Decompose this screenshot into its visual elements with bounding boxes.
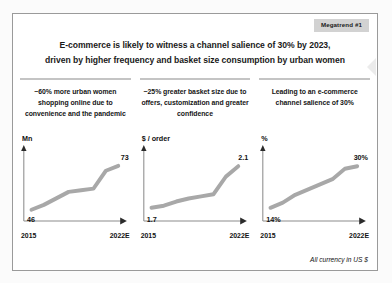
chart-start-value: 46 xyxy=(27,216,35,223)
chart-series-line xyxy=(271,166,358,208)
chart-series-line xyxy=(151,166,238,208)
chart-svg xyxy=(20,145,131,231)
chart-x-tick-end: 2022E xyxy=(110,232,130,239)
chart-urban-women-shoppers: Mn 46 73 2015 2022E xyxy=(20,134,131,239)
insight-text: ~25% greater basket size due to offers, … xyxy=(140,86,251,120)
chart-y-unit-label: % xyxy=(261,134,370,144)
chart-x-axis: 2015 2022E xyxy=(20,232,131,239)
insight-column-1: ~60% more urban women shopping online du… xyxy=(20,78,131,119)
chart-end-value: 2.1 xyxy=(238,154,248,161)
chart-x-tick-end: 2022E xyxy=(229,232,249,239)
chart-end-value: 30% xyxy=(354,154,368,161)
page-title: E-commerce is likely to witness a channe… xyxy=(13,38,377,68)
chart-x-tick-end: 2022E xyxy=(349,232,369,239)
chart-plot-area: 1.7 2.1 xyxy=(140,145,251,231)
insight-column-2: ~25% greater basket size due to offers, … xyxy=(140,78,251,119)
chart-x-tick-start: 2015 xyxy=(260,232,275,239)
insight-column-3: Leading to an e-commerce channel salienc… xyxy=(259,78,370,119)
chart-plot-area: 46 73 xyxy=(20,145,131,231)
chart-basket-size: $ / order 1.7 2.1 2015 2022E xyxy=(140,134,251,239)
chart-x-tick-start: 2015 xyxy=(141,232,156,239)
charts-row: Mn 46 73 2015 2022E $ / order xyxy=(20,134,370,239)
insight-text: ~60% more urban women shopping online du… xyxy=(20,86,131,120)
column-divider xyxy=(20,78,131,80)
chart-series-line xyxy=(31,166,118,210)
chart-start-value: 1.7 xyxy=(147,216,157,223)
page-title-line-2: driven by higher frequency and basket si… xyxy=(31,53,359,68)
page-title-line-1: E-commerce is likely to witness a channe… xyxy=(31,38,359,53)
column-divider xyxy=(259,78,370,80)
chart-channel-salience: % 14% 30% 2015 2022E xyxy=(259,134,370,239)
insight-text: Leading to an e-commerce channel salienc… xyxy=(259,86,370,108)
chart-end-value: 73 xyxy=(121,154,129,161)
megatrend-card: Megatrend #1 E-commerce is likely to wit… xyxy=(12,13,378,271)
chart-y-unit-label: Mn xyxy=(22,134,131,144)
megatrend-badge: Megatrend #1 xyxy=(314,19,369,32)
column-divider xyxy=(140,78,251,80)
chart-start-value: 14% xyxy=(266,216,280,223)
chart-x-axis: 2015 2022E xyxy=(140,232,251,239)
chart-x-tick-start: 2015 xyxy=(21,232,36,239)
chart-x-axis: 2015 2022E xyxy=(259,232,370,239)
currency-footnote: All currency in US $ xyxy=(310,256,368,263)
insight-columns: ~60% more urban women shopping online du… xyxy=(20,78,370,119)
chart-y-unit-label: $ / order xyxy=(142,134,251,144)
chart-plot-area: 14% 30% xyxy=(259,145,370,231)
